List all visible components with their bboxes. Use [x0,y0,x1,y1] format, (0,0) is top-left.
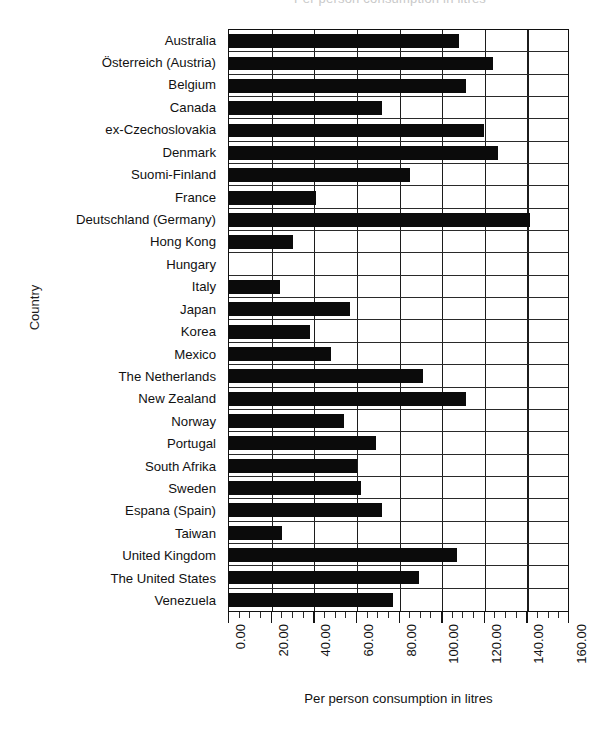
x-tick-minor [292,612,293,618]
y-axis-label: South Afrika [10,455,223,477]
bar-row [229,432,568,454]
y-axis-label: France [10,186,223,208]
x-tick-minor [409,612,410,618]
bar-row [229,75,568,97]
x-axis-ticks [228,612,569,624]
x-tick-minor [548,612,549,618]
y-axis-label: Hong Kong [10,231,223,253]
y-axis-label: Hungary [10,253,223,275]
bar [229,213,530,227]
y-axis-tick-labels: AustraliaÖsterreich (Austria)BelgiumCana… [10,29,223,612]
x-tick-major [399,612,400,623]
x-tick-minor [537,612,538,618]
bar [229,436,376,450]
bar [229,124,484,138]
x-tick-minor [239,612,240,618]
bar [229,302,350,316]
y-axis-label: Canada [10,96,223,118]
y-axis-label: Taiwan [10,522,223,544]
x-tick-major [271,612,272,623]
bar [229,79,466,93]
x-tick-label: 140.00 [531,624,546,664]
x-tick-major [228,612,229,623]
x-tick-minor [377,612,378,618]
bar-row [229,477,568,499]
x-axis-title: Per person consumption in litres [228,691,569,706]
x-tick-minor [281,612,282,618]
bar-row [229,30,568,52]
x-tick-label: 100.00 [446,624,461,664]
x-tick-minor [558,612,559,618]
x-tick-major [526,612,527,623]
y-axis-label: Suomi-Finland [10,164,223,186]
bar-row [229,566,568,588]
x-tick-minor [452,612,453,618]
x-tick-major [313,612,314,623]
x-tick-minor [345,612,346,618]
bar [229,369,423,383]
x-tick-label: 80.00 [404,624,419,657]
y-axis-label: Denmark [10,141,223,163]
bar [229,459,357,473]
x-tick-minor [462,612,463,618]
x-tick-minor [249,612,250,618]
x-tick-label: 120.00 [489,624,504,664]
x-tick-major [356,612,357,623]
y-axis-label: Mexico [10,343,223,365]
x-tick-minor [388,612,389,618]
y-axis-label: Belgium [10,74,223,96]
bar-rows [229,30,568,611]
bar-row [229,499,568,521]
y-axis-label: Italy [10,276,223,298]
y-axis-label: Sweden [10,477,223,499]
bar-row [229,544,568,566]
bar-row [229,97,568,119]
bar-row [229,298,568,320]
x-tick-label: 160.00 [574,624,589,664]
y-axis-label: Norway [10,410,223,432]
x-tick-minor [260,612,261,618]
bar [229,347,331,361]
y-axis-label: Venezuela [10,590,223,612]
bar [229,191,316,205]
x-tick-minor [505,612,506,618]
y-axis-label: Espana (Spain) [10,500,223,522]
bar-row [229,52,568,74]
bar-row [229,343,568,365]
x-tick-minor [516,612,517,618]
bar [229,57,493,71]
plot-area [228,29,569,612]
x-tick-major [568,612,569,623]
bar [229,168,410,182]
bar [229,280,280,294]
x-tick-minor [494,612,495,618]
bar-row [229,119,568,141]
bar [229,235,293,249]
y-axis-label: United Kingdom [10,545,223,567]
y-axis-label: Deutschland (Germany) [10,208,223,230]
y-axis-label: Australia [10,29,223,51]
bar-row [229,231,568,253]
x-tick-major [484,612,485,623]
bar-row [229,209,568,231]
bar [229,414,344,428]
bar [229,593,393,607]
bar-row [229,589,568,611]
bar [229,146,498,160]
x-tick-major [441,612,442,623]
x-tick-label: 20.00 [276,624,291,657]
x-tick-minor [367,612,368,618]
x-axis-tick-labels: 0.0020.0040.0060.0080.00100.00120.00140.… [228,624,569,686]
x-tick-minor [324,612,325,618]
y-axis-label: New Zealand [10,388,223,410]
bar [229,571,419,585]
bar [229,481,361,495]
x-tick-label: 0.00 [233,624,248,649]
x-tick-minor [335,612,336,618]
chart-title: Per person consumption in litres [180,0,600,9]
x-tick-label: 60.00 [361,624,376,657]
y-axis-label: Japan [10,298,223,320]
bar [229,503,382,517]
bar-row [229,276,568,298]
bar-row [229,253,568,275]
